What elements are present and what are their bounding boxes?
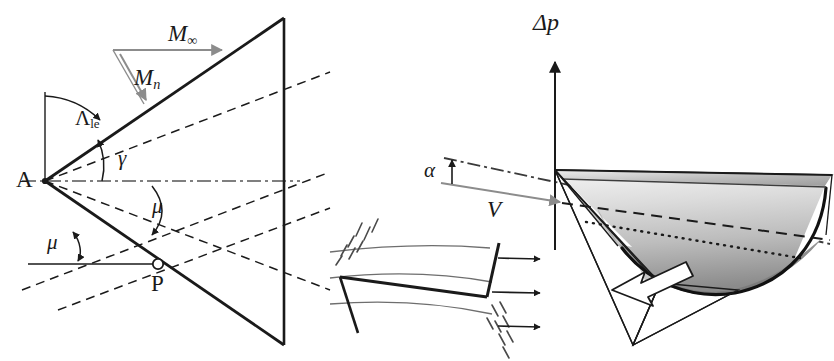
mach-line-lower bbox=[45, 181, 330, 290]
mach-normal-symbol: M bbox=[134, 65, 153, 90]
mach-normal-label: Mn bbox=[134, 66, 160, 91]
section-trailing-edge-strut bbox=[487, 243, 499, 297]
mach-freestream-label: M∞ bbox=[168, 22, 197, 47]
gamma-angle-arc bbox=[98, 140, 104, 181]
apex-label: A bbox=[16, 168, 33, 191]
section-guide-bottom bbox=[330, 302, 492, 314]
mu-lower-angle-arc bbox=[73, 232, 80, 261]
leading-edge-vortex-hatching bbox=[336, 219, 378, 265]
mach-normal-subscript: n bbox=[153, 76, 160, 92]
mu-lower-angle-label: μ bbox=[47, 232, 58, 253]
sweep-angle-subscript: le bbox=[90, 116, 99, 131]
mach-freestream-symbol: M bbox=[168, 21, 187, 46]
section-leading-edge-strut bbox=[340, 277, 358, 333]
point-p-marker bbox=[153, 259, 163, 269]
delta-p-axis-label: Δp bbox=[533, 10, 559, 34]
apex-marker bbox=[42, 178, 48, 184]
gamma-angle-label: γ bbox=[118, 148, 126, 169]
velocity-label: V bbox=[487, 198, 501, 221]
trailing-edge-wake-hatching bbox=[487, 302, 513, 358]
leading-edge-upper bbox=[45, 18, 284, 181]
technical-figure: A P Λle γ μ μ M∞ Mn Δp α V bbox=[0, 0, 834, 361]
point-p-label: P bbox=[151, 272, 164, 295]
flow-arrow-middle bbox=[492, 292, 540, 293]
figure-canvas bbox=[0, 0, 834, 361]
wing-section-flow-detail bbox=[330, 219, 540, 358]
sweep-angle-symbol: Λ bbox=[75, 106, 90, 130]
mach-line-p-down bbox=[22, 260, 160, 312]
mach-line-p-lower bbox=[58, 208, 330, 310]
flow-arrow-lower bbox=[498, 326, 540, 327]
alpha-angle-label: α bbox=[424, 160, 435, 181]
sweep-angle-label: Λle bbox=[75, 108, 100, 130]
mu-upper-angle-label: μ bbox=[152, 196, 163, 217]
leading-edge-lower bbox=[45, 181, 284, 345]
section-chord-line bbox=[340, 277, 487, 297]
mach-freestream-subscript: ∞ bbox=[187, 32, 197, 48]
flow-arrow-upper bbox=[498, 258, 540, 259]
delta-wing-planform bbox=[22, 18, 330, 345]
